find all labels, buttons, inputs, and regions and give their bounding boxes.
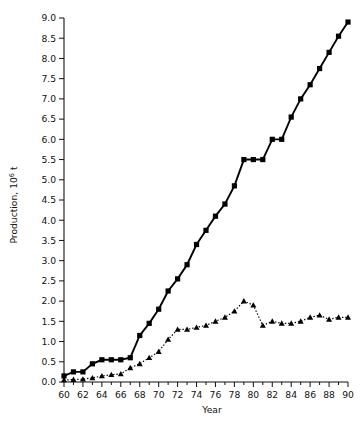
x-tick-label: 60 bbox=[58, 389, 70, 400]
series-triangles-marker bbox=[298, 318, 304, 323]
series-triangles-line bbox=[64, 301, 348, 380]
series-squares-marker bbox=[251, 157, 256, 162]
series-squares-marker bbox=[118, 357, 123, 362]
x-tick-label: 62 bbox=[77, 389, 89, 400]
series-squares-marker bbox=[203, 228, 208, 233]
x-tick-label: 72 bbox=[172, 389, 184, 400]
y-tick-label: 8.0 bbox=[41, 53, 56, 64]
series-squares-marker bbox=[175, 276, 180, 281]
series-squares-marker bbox=[71, 369, 76, 374]
series-squares-marker bbox=[308, 82, 313, 87]
series-triangles-marker bbox=[231, 308, 237, 313]
y-tick-label: 4.5 bbox=[41, 194, 56, 205]
y-tick-label: 3.0 bbox=[41, 255, 56, 266]
series-squares-marker bbox=[90, 361, 95, 366]
series-squares-marker bbox=[270, 137, 275, 142]
x-tick-label: 74 bbox=[191, 389, 203, 400]
series-squares-marker bbox=[128, 355, 133, 360]
series-squares-marker bbox=[260, 157, 265, 162]
x-tick-label: 78 bbox=[229, 389, 241, 400]
series-squares-marker bbox=[194, 242, 199, 247]
series-triangles-marker bbox=[250, 302, 256, 307]
series-squares-marker bbox=[326, 50, 331, 55]
series-triangles-marker bbox=[137, 361, 143, 366]
y-tick-label: 0.0 bbox=[41, 376, 56, 387]
series-squares-marker bbox=[109, 357, 114, 362]
series-squares-marker bbox=[184, 262, 189, 267]
series-squares-marker bbox=[80, 369, 85, 374]
series-triangles-marker bbox=[203, 322, 209, 327]
series-triangles-marker bbox=[156, 349, 162, 354]
series-squares-marker bbox=[156, 307, 161, 312]
y-axis-title: Production, 106 t bbox=[8, 166, 19, 244]
y-tick-label: 7.0 bbox=[41, 93, 56, 104]
page-bleed-artifact bbox=[0, 412, 363, 428]
y-tick-label: 5.5 bbox=[41, 154, 56, 165]
series-triangles-marker bbox=[194, 324, 200, 329]
axes-group bbox=[59, 18, 348, 387]
series-squares-marker bbox=[213, 214, 218, 219]
y-tick-label: 3.5 bbox=[41, 235, 56, 246]
y-tick-label: 6.5 bbox=[41, 113, 56, 124]
production-line-chart: 0.00.51.01.52.02.53.03.54.04.55.05.56.06… bbox=[0, 0, 363, 428]
y-tick-label: 6.0 bbox=[41, 134, 56, 145]
x-tick-label: 64 bbox=[96, 389, 108, 400]
series-triangles bbox=[61, 298, 351, 382]
series-triangles-marker bbox=[260, 322, 266, 327]
x-tick-label: 66 bbox=[115, 389, 127, 400]
series-squares-marker bbox=[166, 288, 171, 293]
series-triangles-marker bbox=[269, 318, 275, 323]
y-tick-label: 9.0 bbox=[41, 12, 56, 23]
series-squares-marker bbox=[147, 321, 152, 326]
series-squares-marker bbox=[345, 19, 350, 24]
x-tick-label: 90 bbox=[342, 389, 354, 400]
series-triangles-marker bbox=[317, 312, 323, 317]
y-tick-label: 1.0 bbox=[41, 336, 56, 347]
axis-titles-group: Year Production, 106 t bbox=[8, 166, 222, 415]
series-triangles-marker bbox=[118, 371, 124, 376]
svg-text:Production, 106 t: Production, 106 t bbox=[8, 166, 19, 244]
x-tick-label: 76 bbox=[210, 389, 222, 400]
x-tick-label: 70 bbox=[153, 389, 165, 400]
y-tick-label: 5.0 bbox=[41, 174, 56, 185]
series-triangles-marker bbox=[146, 355, 152, 360]
x-tick-label: 86 bbox=[304, 389, 316, 400]
series-squares-marker bbox=[222, 201, 227, 206]
x-tick-label: 88 bbox=[323, 389, 335, 400]
data-series-group bbox=[61, 19, 351, 382]
series-squares-marker bbox=[137, 333, 142, 338]
x-tick-label: 68 bbox=[134, 389, 146, 400]
series-triangles-marker bbox=[222, 314, 228, 319]
series-squares-marker bbox=[241, 157, 246, 162]
series-squares-marker bbox=[298, 96, 303, 101]
series-squares-marker bbox=[317, 66, 322, 71]
series-squares-marker bbox=[289, 114, 294, 119]
series-squares-marker bbox=[336, 34, 341, 39]
series-squares-marker bbox=[232, 183, 237, 188]
y-tick-label: 2.5 bbox=[41, 275, 56, 286]
series-squares-marker bbox=[99, 357, 104, 362]
series-squares-marker bbox=[279, 137, 284, 142]
y-tick-label: 8.5 bbox=[41, 33, 56, 44]
y-axis-title-text: Production, 10 bbox=[8, 177, 19, 244]
y-tick-label: 4.0 bbox=[41, 215, 56, 226]
x-tick-label: 84 bbox=[285, 389, 297, 400]
y-tick-label: 7.5 bbox=[41, 73, 56, 84]
y-axis-title-unit: t bbox=[8, 166, 19, 173]
y-tick-label: 0.5 bbox=[41, 356, 56, 367]
x-tick-label: 82 bbox=[266, 389, 278, 400]
series-triangles-marker bbox=[336, 314, 342, 319]
y-tick-label: 1.5 bbox=[41, 316, 56, 327]
tick-labels-group: 0.00.51.01.52.02.53.03.54.04.55.05.56.06… bbox=[41, 12, 354, 400]
y-tick-label: 2.0 bbox=[41, 295, 56, 306]
series-triangles-marker bbox=[241, 298, 247, 303]
series-triangles-marker bbox=[307, 314, 313, 319]
x-tick-label: 80 bbox=[247, 389, 259, 400]
figure-container: 0.00.51.01.52.02.53.03.54.04.55.05.56.06… bbox=[0, 0, 363, 428]
